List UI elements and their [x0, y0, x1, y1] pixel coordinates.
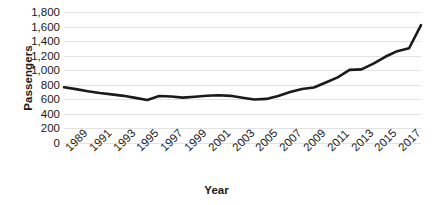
x-axis-tick-labels: 1989199119931995199719992001200320052007…: [64, 145, 424, 185]
y-tick-label: 0: [16, 137, 60, 149]
y-tick-label: 1,200: [16, 50, 60, 62]
series-passengers: [64, 12, 421, 143]
y-tick-label: 1,600: [16, 21, 60, 33]
y-tick-label: 600: [16, 93, 60, 105]
x-axis-title: Year: [0, 184, 433, 196]
y-tick-label: 1,000: [16, 64, 60, 76]
series-line-passengers: [64, 25, 421, 100]
y-tick-label: 400: [16, 108, 60, 120]
y-tick-label: 1,800: [16, 6, 60, 18]
passengers-by-year-line-chart: Passengers 1,8001,6001,4001,2001,0008006…: [0, 0, 433, 205]
y-axis-tick-labels: 1,8001,6001,4001,2001,0008006004002000: [16, 0, 60, 205]
y-tick-label: 800: [16, 79, 60, 91]
plot-area: [64, 12, 421, 143]
y-tick-label: 1,400: [16, 35, 60, 47]
y-tick-label: 200: [16, 122, 60, 134]
